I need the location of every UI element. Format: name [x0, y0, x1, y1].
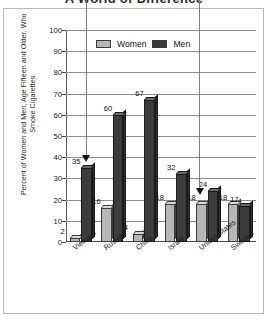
- bar-top: [113, 112, 126, 115]
- y-tick-label: 100: [40, 26, 62, 35]
- bar-face: [196, 204, 207, 242]
- bar-face: [113, 115, 124, 242]
- bar-value-label: 17: [230, 195, 238, 204]
- gridline: [66, 51, 256, 52]
- gridline: [66, 30, 256, 31]
- chart-legend: Women Men: [96, 39, 190, 49]
- y-tick-mark: [62, 221, 66, 222]
- bar-value-label: 67: [135, 89, 143, 98]
- gridline: [66, 136, 256, 137]
- legend-swatch-women: [96, 40, 111, 48]
- chart-title: A World of Difference: [0, 0, 268, 3]
- bar-united-states-women: [196, 204, 207, 242]
- y-tick-label: 50: [40, 132, 62, 141]
- bar-value-label: 18: [156, 193, 164, 202]
- gridline: [66, 94, 256, 95]
- bar-face: [144, 100, 155, 242]
- legend-label-men: Men: [173, 39, 190, 49]
- bar-value-label: 35: [72, 157, 80, 166]
- bar-china-men: [144, 100, 155, 242]
- legend-swatch-men: [152, 40, 167, 48]
- y-tick-mark: [62, 94, 66, 95]
- y-tick-label: 30: [40, 174, 62, 183]
- y-tick-label: 70: [40, 89, 62, 98]
- y-tick-label: 60: [40, 110, 62, 119]
- y-tick-mark: [62, 51, 66, 52]
- vietnam-arrow-line: [86, 0, 87, 155]
- y-axis-title: Percent of Women and Men, Age Fifteen an…: [19, 4, 37, 204]
- bar-value-label: 60: [104, 104, 112, 113]
- gridline: [66, 72, 256, 73]
- bar-top: [208, 188, 221, 191]
- bar-israel-women: [165, 204, 176, 242]
- bar-russia-women: [101, 208, 112, 242]
- y-tick-mark: [62, 115, 66, 116]
- y-tick-label: 10: [40, 216, 62, 225]
- y-tick-mark: [62, 136, 66, 137]
- bar-side: [155, 94, 158, 239]
- y-tick-label: 80: [40, 68, 62, 77]
- bar-face: [176, 174, 187, 242]
- bar-value-label: 2: [61, 227, 65, 236]
- bar-israel-men: [176, 174, 187, 242]
- bar-value-label: 16: [92, 197, 100, 206]
- y-tick-label: 20: [40, 195, 62, 204]
- y-tick-mark: [62, 200, 66, 201]
- y-tick-mark: [62, 157, 66, 158]
- y-tick-mark: [62, 242, 66, 243]
- bar-value-label: 32: [167, 163, 175, 172]
- gridline: [66, 157, 256, 158]
- bar-side: [187, 169, 190, 239]
- bar-value-label: 18: [187, 193, 195, 202]
- y-tick-mark: [62, 30, 66, 31]
- bar-face: [101, 208, 112, 242]
- bar-face: [165, 204, 176, 242]
- plot-area: [66, 30, 256, 242]
- united-states-arrow-head: [196, 188, 204, 195]
- y-tick-label: 40: [40, 153, 62, 162]
- y-tick-label: 0: [40, 238, 62, 247]
- bar-value-label: 4: [124, 223, 128, 232]
- legend-label-women: Women: [117, 39, 146, 49]
- bar-side: [123, 109, 126, 239]
- vietnam-arrow-head: [82, 155, 90, 162]
- y-axis-tick-labels: 0102030405060708090100: [36, 30, 62, 242]
- bar-russia-men: [113, 115, 124, 242]
- y-tick-label: 90: [40, 47, 62, 56]
- united-states-arrow-line: [199, 0, 200, 188]
- chart-figure: A World of Difference Percent of Women a…: [0, 0, 268, 323]
- bar-value-label: 18: [219, 193, 227, 202]
- gridline: [66, 115, 256, 116]
- y-tick-mark: [62, 178, 66, 179]
- y-tick-mark: [62, 72, 66, 73]
